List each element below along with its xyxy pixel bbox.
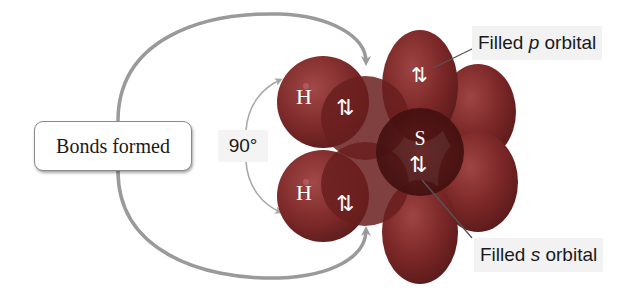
filled-p-orbital-letter: p <box>529 32 540 53</box>
angle-arc-top <box>246 80 280 130</box>
electron-pair-s: ⇅ <box>409 152 427 177</box>
atom-label-s: S <box>414 127 425 149</box>
filled-s-orbital-letter: s <box>531 244 541 265</box>
h2s-orbital-diagram: H H S ⇅ ⇅ ⇅ ⇅ Bonds formed 90° Filled p … <box>0 0 641 293</box>
filled-s-prefix: Filled <box>480 244 531 265</box>
bonds-formed-label: Bonds formed <box>34 121 192 171</box>
electron-pair-bond-top: ⇅ <box>336 95 354 120</box>
filled-p-prefix: Filled <box>478 32 529 53</box>
angle-arc-bottom <box>246 162 280 212</box>
bond-angle-text: 90° <box>229 135 258 157</box>
atom-label-h-top: H <box>296 84 312 109</box>
electron-pair-bond-bottom: ⇅ <box>336 191 354 216</box>
filled-s-suffix: orbital <box>540 244 597 265</box>
filled-s-orbital-label: Filled s orbital <box>474 238 603 272</box>
filled-p-suffix: orbital <box>539 32 596 53</box>
electron-pair-p: ⇅ <box>411 64 428 86</box>
bond-angle-label: 90° <box>218 130 268 162</box>
bonds-formed-text: Bonds formed <box>56 135 170 158</box>
filled-p-orbital-label: Filled p orbital <box>472 26 602 60</box>
atom-label-h-bottom: H <box>296 180 312 205</box>
